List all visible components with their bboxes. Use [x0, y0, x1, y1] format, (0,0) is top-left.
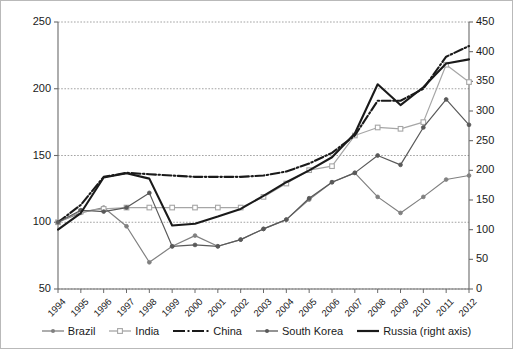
y2-axis-tick-label: 150 [476, 194, 510, 205]
data-point [330, 180, 334, 184]
data-point [353, 171, 357, 175]
y2-axis-tick-label: 100 [476, 224, 510, 235]
data-point [125, 224, 129, 228]
legend-label: India [135, 325, 159, 337]
legend-item-brazil[interactable]: Brazil [42, 325, 96, 337]
legend-swatch-india-icon [109, 326, 131, 336]
data-point [307, 196, 311, 200]
y2-axis-tick-label: 400 [476, 46, 510, 57]
data-point [467, 123, 471, 127]
y2-axis-tick-label: 350 [476, 75, 510, 86]
chart-legend: BrazilIndiaChinaSouth KoreaRussia (right… [1, 321, 512, 341]
data-point [330, 164, 335, 169]
data-point [193, 234, 197, 238]
y-axis-tick-label: 250 [19, 16, 51, 27]
data-point [216, 244, 220, 248]
data-point [421, 126, 425, 130]
data-point [170, 244, 174, 248]
legend-item-south-korea[interactable]: South Korea [256, 325, 343, 337]
legend-item-china[interactable]: China [173, 325, 242, 337]
data-point [193, 243, 197, 247]
data-point [147, 205, 152, 210]
data-point [147, 260, 151, 264]
data-point [467, 174, 471, 178]
legend-swatch-russia-right-axis-icon [357, 326, 379, 336]
data-point [147, 191, 151, 195]
data-point [398, 127, 403, 132]
y2-axis-tick-label: 0 [476, 283, 510, 294]
legend-label: South Korea [282, 325, 343, 337]
data-point [56, 220, 60, 224]
data-point [284, 218, 288, 222]
legend-swatch-south-korea-icon [256, 326, 278, 336]
y-axis-tick-label: 50 [19, 283, 51, 294]
data-point [193, 205, 198, 210]
legend-item-india[interactable]: India [109, 325, 159, 337]
data-point [444, 98, 448, 102]
y2-axis-tick-label: 200 [476, 164, 510, 175]
data-point [399, 163, 403, 167]
series-line-south-korea [58, 99, 469, 246]
data-point [421, 195, 425, 199]
legend-label: Russia (right axis) [383, 325, 471, 337]
data-point [125, 206, 129, 210]
y-axis-tick-label: 200 [19, 83, 51, 94]
y-axis-tick-label: 100 [19, 216, 51, 227]
data-point [216, 205, 221, 210]
chart-canvas [1, 1, 513, 349]
data-point [239, 238, 243, 242]
data-point [262, 227, 266, 231]
legend-label: Brazil [68, 325, 96, 337]
data-point [444, 178, 448, 182]
legend-swatch-brazil-icon [42, 326, 64, 336]
y2-axis-tick-label: 250 [476, 135, 510, 146]
data-point [375, 125, 380, 130]
legend-label: China [213, 325, 242, 337]
y2-axis-tick-label: 300 [476, 105, 510, 116]
data-point [421, 120, 426, 125]
legend-item-russia-right-axis[interactable]: Russia (right axis) [357, 325, 471, 337]
data-point [102, 210, 106, 214]
y2-axis-tick-label: 50 [476, 253, 510, 264]
chart-figure: 5010015020025005010015020025030035040045… [0, 0, 513, 349]
data-point [399, 211, 403, 215]
series-line-russia-right-axis [58, 59, 469, 229]
data-point [376, 195, 380, 199]
data-point [467, 80, 472, 85]
series-line-brazil [58, 173, 469, 262]
data-point [170, 205, 175, 210]
data-point [376, 154, 380, 158]
legend-swatch-china-icon [173, 326, 209, 336]
y-axis-tick-label: 150 [19, 150, 51, 161]
y2-axis-tick-label: 450 [476, 16, 510, 27]
